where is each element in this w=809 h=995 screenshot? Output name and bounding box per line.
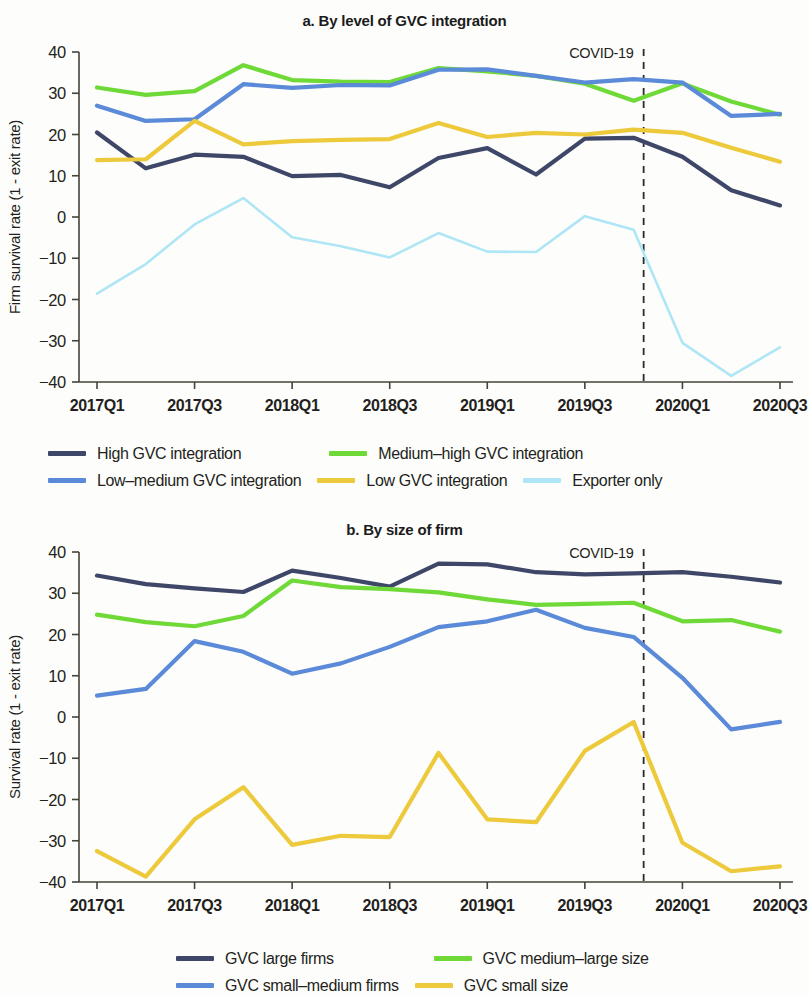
figure-page: a. By level of GVC integration −40−30−20… (0, 0, 809, 995)
x-tick-label: 2019Q3 (558, 397, 613, 414)
legend-color-swatch (48, 451, 86, 456)
y-tick-label: −30 (39, 832, 66, 850)
x-tick-label: 2018Q3 (362, 897, 417, 914)
legend-color-swatch (176, 983, 214, 988)
y-tick-label: −40 (39, 373, 66, 391)
y-tick-label: −30 (39, 332, 66, 350)
legend-label: GVC medium–large size (483, 950, 649, 968)
y-tick-label: 20 (48, 126, 66, 144)
y-tick-label: −40 (39, 873, 66, 891)
x-tick-label: 2019Q1 (460, 397, 515, 414)
legend-color-swatch (415, 983, 453, 988)
y-tick-label: −20 (39, 791, 66, 809)
legend-item[interactable]: GVC large firms (176, 950, 334, 968)
legend-color-swatch (434, 956, 472, 961)
legend-label: Low GVC integration (366, 472, 507, 490)
x-tick-label: 2020Q1 (655, 897, 710, 914)
panel-a: a. By level of GVC integration −40−30−20… (0, 0, 809, 500)
x-tick-label: 2018Q1 (265, 897, 320, 914)
covid-annotation-label: COVID-19 (569, 45, 634, 61)
y-tick-label: 20 (48, 626, 66, 644)
series-line (97, 610, 780, 730)
y-tick-label: 0 (57, 208, 66, 226)
legend-label: High GVC integration (97, 445, 241, 463)
legend-label: Exporter only (572, 472, 662, 490)
legend-color-swatch (317, 478, 355, 483)
legend-item[interactable]: Medium–high GVC integration (329, 445, 583, 463)
y-tick-label: 30 (48, 584, 66, 602)
y-tick-label: 40 (48, 43, 66, 61)
legend-color-swatch (176, 956, 214, 961)
panel-b-legend: GVC large firmsGVC medium–large sizeGVC … (0, 945, 809, 995)
x-tick-label: 2017Q3 (167, 397, 222, 414)
legend-label: Medium–high GVC integration (378, 445, 583, 463)
legend-item[interactable]: High GVC integration (48, 445, 241, 463)
y-axis-title: Survival rate (1 - exit rate) (6, 635, 23, 799)
legend-item[interactable]: Low GVC integration (317, 472, 507, 490)
legend-row: Low–medium GVC integrationLow GVC integr… (0, 467, 809, 494)
legend-row: High GVC integrationMedium–high GVC inte… (0, 440, 809, 467)
legend-color-swatch (48, 478, 86, 483)
legend-item[interactable]: GVC medium–large size (434, 950, 649, 968)
legend-color-swatch (329, 451, 367, 456)
legend-row: GVC large firmsGVC medium–large size (0, 945, 809, 972)
legend-label: GVC large firms (225, 950, 334, 968)
series-line (97, 132, 780, 205)
x-tick-label: 2017Q3 (167, 897, 222, 914)
series-line (97, 722, 780, 877)
panel-b: b. By size of firm −40−30−20−10010203040… (0, 500, 809, 995)
x-tick-label: 2017Q1 (70, 397, 125, 414)
panel-a-legend: High GVC integrationMedium–high GVC inte… (0, 440, 809, 494)
x-tick-label: 2019Q1 (460, 897, 515, 914)
series-line (97, 198, 780, 376)
y-tick-label: 10 (48, 667, 66, 685)
legend-item[interactable]: GVC small–medium firms (176, 977, 399, 995)
legend-row: GVC small–medium firmsGVC small size (0, 972, 809, 995)
legend-label: Low–medium GVC integration (97, 472, 301, 490)
y-tick-label: 10 (48, 167, 66, 185)
y-axis-title: Firm survival rate (1 - exit rate) (6, 120, 23, 314)
y-tick-label: 40 (48, 543, 66, 561)
covid-annotation-label: COVID-19 (569, 545, 634, 561)
y-tick-label: −20 (39, 291, 66, 309)
legend-color-swatch (523, 478, 561, 483)
y-tick-label: 0 (57, 708, 66, 726)
x-tick-label: 2019Q3 (558, 897, 613, 914)
series-line (97, 564, 780, 592)
x-tick-label: 2020Q3 (753, 397, 808, 414)
series-line (97, 65, 780, 115)
panel-b-plot: −40−30−20−100102030402017Q12017Q32018Q12… (0, 500, 809, 940)
legend-item[interactable]: Exporter only (523, 472, 662, 490)
x-tick-label: 2018Q1 (265, 397, 320, 414)
legend-item[interactable]: GVC small size (415, 977, 568, 995)
legend-label: GVC small–medium firms (225, 977, 399, 995)
legend-label: GVC small size (464, 977, 568, 995)
x-tick-label: 2018Q3 (362, 397, 417, 414)
y-tick-label: −10 (39, 749, 66, 767)
legend-item[interactable]: Low–medium GVC integration (48, 472, 301, 490)
y-tick-label: −10 (39, 249, 66, 267)
x-tick-label: 2020Q3 (753, 897, 808, 914)
series-line (97, 69, 780, 121)
y-tick-label: 30 (48, 84, 66, 102)
x-tick-label: 2017Q1 (70, 897, 125, 914)
panel-a-plot: −40−30−20−100102030402017Q12017Q32018Q12… (0, 0, 809, 440)
x-tick-label: 2020Q1 (655, 397, 710, 414)
